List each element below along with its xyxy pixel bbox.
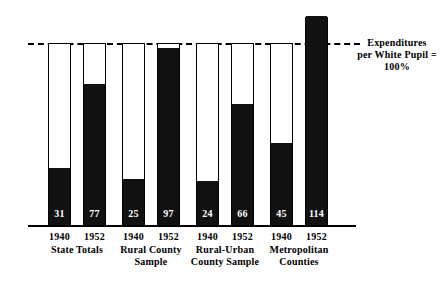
bar-1940-state-totals[interactable]: 31 xyxy=(48,43,71,226)
bar-value-label: 77 xyxy=(84,209,105,219)
group-label-metropolitan-counties: Metropolitan Counties xyxy=(258,244,340,268)
bar-fill xyxy=(306,16,327,225)
bar-1952-metropolitan-counties[interactable]: 114 xyxy=(305,17,328,226)
chart-figure: 31 77 25 97 24 66 45 xyxy=(0,0,440,292)
year-label-1952-metropolitan-counties: 1952 xyxy=(292,232,341,242)
bar-value-label: 45 xyxy=(271,209,292,219)
bar-1940-rural-urban-county-sample[interactable]: 24 xyxy=(196,43,219,226)
group-label-rural-urban-county-sample: Rural-Urban County Sample xyxy=(185,244,265,268)
group-label-rural-county-sample: Rural County Sample xyxy=(111,244,191,268)
reference-line-legend-label: Expenditures per White Pupil = 100% xyxy=(357,37,437,73)
bar-fill xyxy=(158,48,179,225)
bar-fill xyxy=(84,84,105,225)
bar-fill xyxy=(232,104,253,225)
group-label-state-totals: State Totals xyxy=(42,244,112,256)
plot-area: 31 77 25 97 24 66 45 xyxy=(0,0,440,292)
bar-1940-metropolitan-counties[interactable]: 45 xyxy=(270,43,293,226)
bar-value-label: 97 xyxy=(158,209,179,219)
bar-1940-rural-county-sample[interactable]: 25 xyxy=(122,43,145,226)
bar-value-label: 66 xyxy=(232,209,253,219)
bar-1952-state-totals[interactable]: 77 xyxy=(83,43,106,226)
bar-value-label: 114 xyxy=(306,209,327,219)
bar-value-label: 31 xyxy=(49,209,70,219)
bar-1952-rural-urban-county-sample[interactable]: 66 xyxy=(231,43,254,226)
bar-value-label: 24 xyxy=(197,209,218,219)
bar-value-label: 25 xyxy=(123,209,144,219)
bar-1952-rural-county-sample[interactable]: 97 xyxy=(157,43,180,226)
